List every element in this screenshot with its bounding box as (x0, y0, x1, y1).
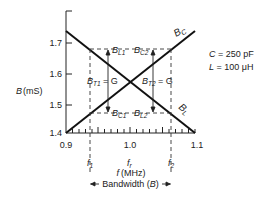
bandwidth-label: Bandwidth (B) (102, 179, 159, 189)
bt2-label: BT2 = G (142, 76, 173, 87)
f1-label: f1 (87, 158, 94, 169)
y-tick-1-5: 1.5 (49, 100, 62, 110)
x-tick-1-0: 1.0 (124, 140, 137, 150)
bl1-label: BL1 (112, 45, 126, 56)
x-axis-label: f(MHz) (116, 168, 145, 178)
capacitance-label: C = 250 pF (209, 49, 254, 59)
x-axis-minor-ticks (73, 127, 196, 133)
y-tick-1-4: 1.4 (49, 128, 62, 138)
resonance-diagram: 1.7 1.6 1.5 1.4 B(mS) 0.9 1.0 1.1 BC BL … (0, 0, 275, 200)
bc2-label: BC2 (134, 45, 149, 56)
x-tick-0-9: 0.9 (60, 140, 73, 150)
bc1-label: BC1 (112, 108, 127, 119)
y-axis-label: B(mS) (16, 86, 43, 96)
bl2-label: BL2 (134, 108, 148, 119)
y-tick-1-7: 1.7 (49, 38, 62, 48)
x-tick-1-1: 1.1 (191, 140, 204, 150)
y-tick-1-6: 1.6 (49, 69, 62, 79)
inductance-label: L = 100 μH (209, 62, 253, 72)
bl-curve-label: BL (176, 101, 192, 117)
f2-label: f2 (168, 158, 175, 169)
bt1-label: BT1 = G (87, 76, 118, 87)
